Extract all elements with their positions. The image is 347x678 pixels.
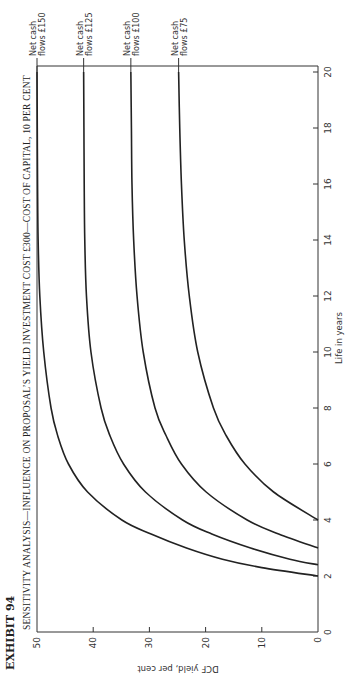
- series-curve-2: [131, 72, 318, 548]
- x-tick-label: 12: [323, 290, 333, 301]
- y-tick-label: 0: [313, 637, 323, 643]
- x-tick-label: 20: [323, 66, 333, 78]
- series-curve-1: [84, 72, 318, 565]
- y-tick-label: 10: [257, 637, 267, 649]
- y-tick-label: 20: [201, 637, 211, 649]
- series-label-line1: Net cash: [171, 21, 180, 56]
- y-axis-label: DCF yield, per cent: [137, 664, 219, 674]
- series-label-line1: Net cash: [123, 21, 132, 56]
- curves: [37, 72, 318, 576]
- x-tick-label: 10: [323, 346, 333, 358]
- series-label-line2: flows £150: [38, 12, 47, 56]
- x-tick-label: 16: [323, 178, 333, 190]
- x-tick-label: 14: [323, 234, 333, 246]
- x-tick-label: 2: [323, 573, 333, 579]
- series-curve-0: [37, 72, 318, 576]
- series-label-line2: flows £75: [180, 18, 189, 56]
- x-tick-label: 4: [323, 517, 333, 523]
- series-curve-3: [179, 72, 318, 520]
- series-label-line2: flows £100: [132, 12, 141, 56]
- x-axis-label: Life in years: [334, 312, 344, 364]
- chart-title: SENSITIVITY ANALYSIS—INFLUENCE ON PROPOS…: [22, 75, 32, 630]
- series-labels: Net cashflows £150Net cashflows £125Net …: [29, 12, 189, 72]
- x-tick-label: 0: [323, 629, 333, 635]
- chart: EXHIBIT 94 SENSITIVITY ANALYSIS—INFLUENC…: [0, 0, 347, 678]
- y-tick-label: 40: [88, 637, 98, 649]
- series-label-line1: Net cash: [76, 21, 85, 56]
- exhibit-label: EXHIBIT 94: [4, 595, 17, 670]
- y-tick-label: 30: [144, 637, 154, 649]
- y-tick-label: 50: [32, 637, 42, 649]
- plot-frame: [37, 66, 318, 632]
- series-label-line1: Net cash: [29, 21, 38, 56]
- rotated-chart-stage: EXHIBIT 94 SENSITIVITY ANALYSIS—INFLUENC…: [0, 0, 347, 678]
- series-label-line2: flows £125: [85, 12, 94, 56]
- x-tick-label: 8: [323, 405, 333, 411]
- x-tick-label: 6: [323, 461, 333, 467]
- x-tick-label: 18: [323, 122, 333, 134]
- axes: 0246810121416182001020304050: [32, 66, 333, 648]
